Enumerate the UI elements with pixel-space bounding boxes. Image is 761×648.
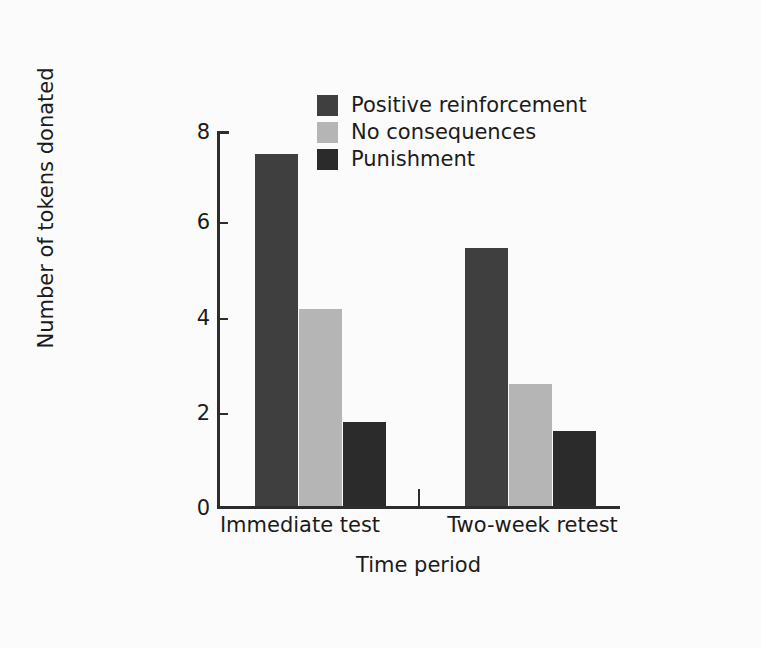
bar: [343, 422, 386, 506]
chart-figure: Positive reinforcement No consequences P…: [0, 0, 761, 648]
bar: [553, 431, 596, 506]
bar: [465, 248, 508, 506]
bar: [299, 309, 342, 506]
bar-series-layer: [0, 0, 761, 648]
bar: [509, 384, 552, 506]
bar: [255, 154, 298, 506]
